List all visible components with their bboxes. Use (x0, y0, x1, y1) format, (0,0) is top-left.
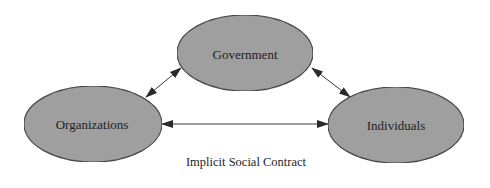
edge-organizations-government (146, 68, 181, 97)
edge-government-individuals (312, 68, 350, 97)
label-government: Government (213, 48, 278, 61)
diagram-caption: Implicit Social Contract (186, 156, 306, 169)
label-organizations: Organizations (56, 118, 129, 131)
label-individuals: Individuals (367, 119, 426, 132)
